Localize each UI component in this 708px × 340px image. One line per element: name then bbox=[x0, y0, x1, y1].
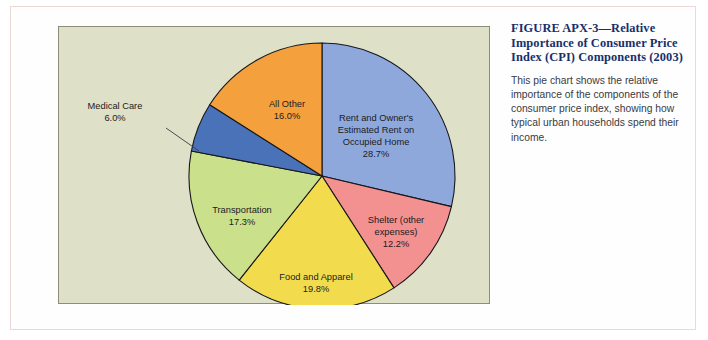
figure-title: FIGURE APX-3—Relative Importance of Cons… bbox=[511, 21, 689, 65]
pie-slice-label: Medical Care6.0% bbox=[88, 101, 143, 123]
figure-root: Rent and Owner'sEstimated Rent onOccupie… bbox=[0, 0, 708, 340]
figure-description: This pie chart shows the relative import… bbox=[511, 74, 689, 145]
pie-chart: Rent and Owner'sEstimated Rent onOccupie… bbox=[59, 27, 491, 305]
pie-slices-group bbox=[189, 43, 455, 305]
pie-chart-panel: Rent and Owner'sEstimated Rent onOccupie… bbox=[58, 26, 490, 304]
figure-frame: Rent and Owner'sEstimated Rent onOccupie… bbox=[10, 6, 696, 330]
caption-column: FIGURE APX-3—Relative Importance of Cons… bbox=[511, 21, 689, 145]
